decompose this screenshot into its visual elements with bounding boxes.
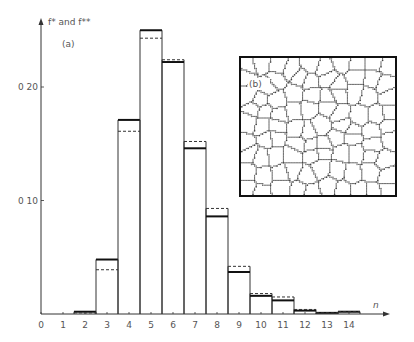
bar-n-4 [118, 120, 140, 314]
x-tick-labels: 01234567891011121314 [38, 312, 355, 330]
bar-n-11 [272, 297, 294, 314]
panel-b-label: (b) [249, 79, 262, 89]
x-tick-label: 4 [126, 320, 132, 330]
x-tick-label: 0 [38, 320, 44, 330]
bar-n-8 [206, 208, 228, 314]
x-axis-label: n [373, 300, 379, 310]
x-tick-label: 6 [170, 320, 176, 330]
bar-n-5 [140, 30, 162, 314]
panel-a-label: (a) [62, 39, 75, 49]
x-tick-label: 13 [321, 320, 332, 330]
y-axis-label: f* and f** [48, 17, 91, 27]
bar-n-3 [96, 260, 118, 314]
bar-n-10 [250, 294, 272, 314]
x-tick-label: 8 [214, 320, 220, 330]
x-tick-label: 12 [299, 320, 310, 330]
x-tick-label: 7 [192, 320, 198, 330]
y-tick-label: 0 10 [18, 196, 38, 206]
x-tick-label: 1 [60, 320, 66, 330]
x-tick-label: 11 [277, 320, 288, 330]
inset-micrograph: (b) [240, 57, 396, 196]
bar-n-7 [184, 141, 206, 314]
bar-n-6 [162, 60, 184, 314]
x-tick-label: 2 [82, 320, 88, 330]
x-tick-label: 9 [236, 320, 242, 330]
x-axis-arrow-icon [383, 312, 390, 317]
y-tick-label: 0 20 [18, 82, 38, 92]
x-tick-label: 14 [343, 320, 355, 330]
x-tick-label: 3 [104, 320, 110, 330]
x-tick-label: 5 [148, 320, 154, 330]
y-axis-arrow-icon [39, 18, 44, 25]
y-tick-labels: 0 100 20 [18, 82, 44, 206]
bar-n-9 [228, 266, 250, 314]
histogram-chart: 01234567891011121314 0 100 20 f* and f**… [0, 0, 414, 342]
x-tick-label: 10 [255, 320, 267, 330]
